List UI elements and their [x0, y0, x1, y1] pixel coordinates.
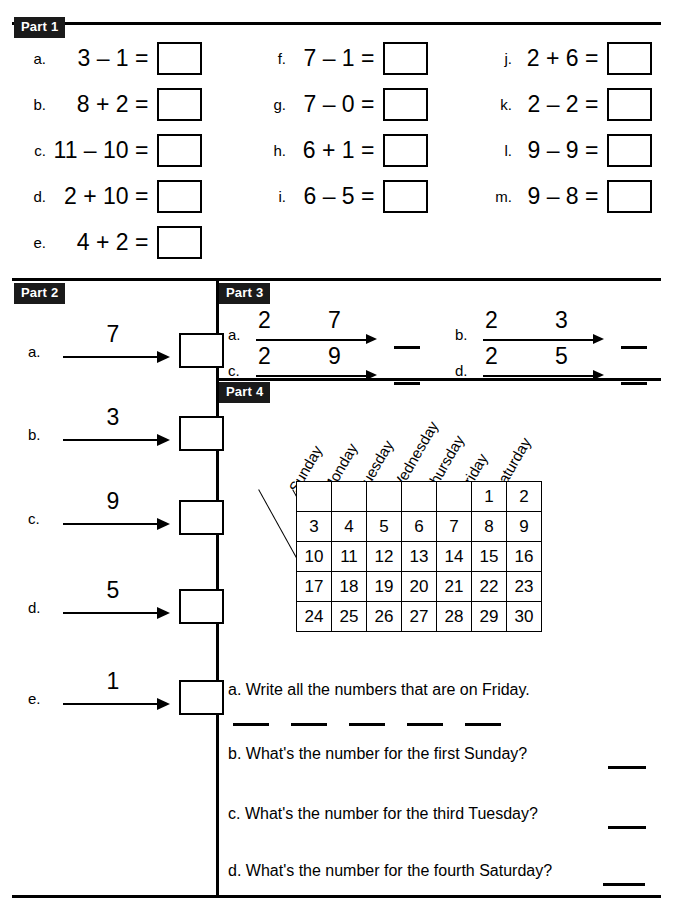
question-d-blank[interactable] [603, 883, 645, 886]
answer-box[interactable] [607, 88, 652, 121]
calendar-cell[interactable]: 13 [402, 542, 437, 572]
question-c-blank[interactable] [608, 826, 646, 829]
question-a-blank[interactable] [291, 723, 327, 726]
arrow-head [157, 351, 170, 363]
answer-box[interactable] [179, 333, 224, 368]
answer-box[interactable] [383, 134, 428, 167]
calendar-row: 3 4 5 6 7 8 9 [297, 512, 542, 542]
calendar-grid: 1 2 3 4 5 6 7 8 9 10 11 12 13 14 15 16 1… [296, 481, 542, 632]
calendar-cell[interactable] [332, 482, 367, 512]
question-a-blank[interactable] [349, 723, 385, 726]
answer-blank[interactable] [394, 382, 420, 385]
arrow-line [63, 703, 160, 705]
answer-box[interactable] [383, 88, 428, 121]
calendar-row: 10 11 12 13 14 15 16 [297, 542, 542, 572]
answer-box[interactable] [607, 180, 652, 213]
answer-box[interactable] [179, 500, 224, 535]
calendar-cell[interactable]: 8 [472, 512, 507, 542]
part-3-label: Part 3 [219, 283, 270, 304]
arrow-number: 5 [63, 577, 163, 604]
question-a-blank[interactable] [233, 723, 269, 726]
calendar-cell[interactable]: 5 [367, 512, 402, 542]
calendar-cell[interactable]: 22 [472, 572, 507, 602]
problem-letter: g. [266, 96, 286, 113]
arrow-line [63, 356, 160, 358]
arrow-count-number: 7 [328, 307, 341, 334]
calendar-cell[interactable]: 25 [332, 602, 367, 632]
calendar-cell[interactable]: 14 [437, 542, 472, 572]
calendar-cell[interactable]: 10 [297, 542, 332, 572]
problem-expression: 9 – 8 = [516, 183, 602, 210]
calendar-cell[interactable]: 29 [472, 602, 507, 632]
calendar-cell[interactable]: 2 [507, 482, 542, 512]
calendar-cell[interactable]: 4 [332, 512, 367, 542]
calendar-cell[interactable]: 24 [297, 602, 332, 632]
item-letter: b. [455, 326, 468, 343]
calendar-cell[interactable] [367, 482, 402, 512]
calendar-cell[interactable]: 6 [402, 512, 437, 542]
answer-box[interactable] [179, 416, 224, 451]
calendar-cell[interactable]: 28 [437, 602, 472, 632]
answer-blank[interactable] [621, 346, 647, 349]
calendar-cell[interactable] [402, 482, 437, 512]
calendar-cell[interactable]: 23 [507, 572, 542, 602]
calendar-cell[interactable]: 18 [332, 572, 367, 602]
answer-box[interactable] [607, 42, 652, 75]
calendar-cell[interactable] [437, 482, 472, 512]
calendar-cell[interactable]: 26 [367, 602, 402, 632]
answer-box[interactable] [157, 134, 202, 167]
answer-box[interactable] [157, 88, 202, 121]
arrow-start-number: 2 [485, 307, 498, 334]
calendar-cell[interactable]: 12 [367, 542, 402, 572]
calendar-cell[interactable]: 17 [297, 572, 332, 602]
answer-blank[interactable] [621, 382, 647, 385]
calendar-cell[interactable]: 19 [367, 572, 402, 602]
calendar-cell[interactable]: 11 [332, 542, 367, 572]
problem-letter: f. [266, 50, 286, 67]
answer-box[interactable] [179, 589, 224, 624]
problem-i: i. 6 – 5 = [266, 180, 428, 213]
calendar-cell[interactable]: 16 [507, 542, 542, 572]
calendar-cell[interactable]: 3 [297, 512, 332, 542]
calendar-cell[interactable]: 27 [402, 602, 437, 632]
calendar-cell[interactable]: 20 [402, 572, 437, 602]
calendar-row: 24 25 26 27 28 29 30 [297, 602, 542, 632]
problem-expression: 2 + 6 = [516, 45, 602, 72]
question-b-blank[interactable] [608, 766, 646, 769]
calendar-cell[interactable] [297, 482, 332, 512]
calendar-cell[interactable]: 1 [472, 482, 507, 512]
problem-g: g. 7 – 0 = [266, 88, 428, 121]
calendar-cell[interactable]: 15 [472, 542, 507, 572]
problem-letter: l. [490, 142, 512, 159]
arrow-head [366, 334, 377, 344]
problem-letter: h. [266, 142, 286, 159]
answer-box[interactable] [179, 680, 224, 715]
problem-expression: 2 + 10 = [50, 183, 152, 210]
answer-box[interactable] [157, 226, 202, 259]
problem-e: e. 4 + 2 = [20, 226, 202, 259]
arrow-start-number: 2 [258, 307, 271, 334]
question-a-blank[interactable] [465, 723, 501, 726]
calendar-cell[interactable]: 21 [437, 572, 472, 602]
arrow-start-number: 2 [258, 343, 271, 370]
answer-box[interactable] [607, 134, 652, 167]
answer-box[interactable] [157, 42, 202, 75]
problem-letter: j. [490, 50, 512, 67]
arrow-line [63, 612, 160, 614]
calendar-cell[interactable]: 9 [507, 512, 542, 542]
arrow-number: 1 [63, 668, 163, 695]
problem-expression: 4 + 2 = [50, 229, 152, 256]
answer-box[interactable] [383, 180, 428, 213]
problem-a: a. 3 – 1 = [20, 42, 202, 75]
answer-blank[interactable] [394, 346, 420, 349]
question-a-blank[interactable] [407, 723, 443, 726]
calendar-cell[interactable]: 30 [507, 602, 542, 632]
problem-expression: 7 – 1 = [290, 45, 378, 72]
answer-box[interactable] [157, 180, 202, 213]
calendar-cell[interactable]: 7 [437, 512, 472, 542]
answer-box[interactable] [383, 42, 428, 75]
arrow-number: 3 [63, 404, 163, 431]
problem-expression: 3 – 1 = [50, 45, 152, 72]
column-divider [216, 281, 219, 895]
calendar-row: 1 2 [297, 482, 542, 512]
